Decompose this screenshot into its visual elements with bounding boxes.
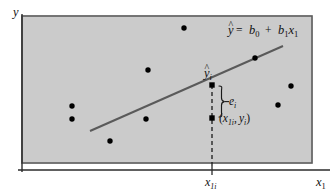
- scatter-point: [252, 55, 257, 60]
- residual-label-subscript: i: [234, 101, 236, 110]
- y-axis-label: y: [11, 5, 19, 19]
- scatter-point: [143, 116, 148, 121]
- plot-area-texture: [22, 16, 312, 163]
- figure-canvas: y x1 x1i y ^ = b0 + b1x1 yi: [0, 0, 333, 194]
- observed-data-point: [209, 115, 214, 120]
- scatter-point: [181, 25, 186, 30]
- equation-slope-var-subscript: 1: [294, 29, 298, 39]
- equation-equals: =: [236, 24, 243, 36]
- scatter-point: [69, 103, 74, 108]
- scatter-point: [288, 83, 293, 88]
- x-axis-tick-label: x1i: [204, 175, 217, 191]
- scatter-point: [145, 67, 150, 72]
- regression-residual-figure: y x1 x1i y ^ = b0 + b1x1 yi: [0, 0, 333, 194]
- fitted-value-hat-symbol: ^: [205, 62, 210, 73]
- equation-intercept-subscript: 0: [255, 29, 259, 39]
- equation-hat-symbol: ^: [229, 19, 234, 30]
- fitted-value-point: [209, 82, 214, 87]
- scatter-point: [107, 138, 112, 143]
- x-axis-label: x1: [315, 175, 326, 191]
- scatter-point: [275, 102, 280, 107]
- observed-comma: ,: [234, 112, 237, 125]
- equation-plus: +: [265, 24, 272, 36]
- x-axis-label-subscript: 1: [322, 181, 326, 191]
- x-tick-label-subscript: 1i: [210, 182, 216, 191]
- observed-close-paren: ): [246, 112, 250, 125]
- scatter-point: [69, 116, 74, 121]
